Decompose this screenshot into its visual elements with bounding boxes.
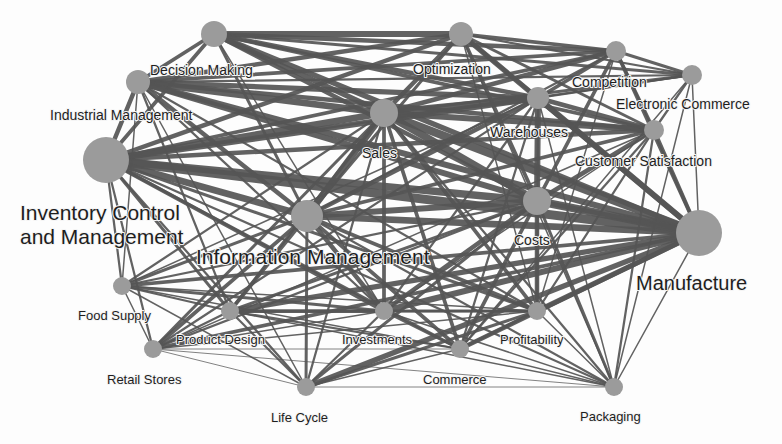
node-label-manu: Manufacture [636, 272, 747, 294]
node-label-life: Life Cycle [271, 410, 328, 425]
node-label-cs: Customer Satisfaction [575, 153, 712, 169]
node-opt [449, 22, 473, 46]
node-label-ecom: Electronic Commerce [616, 96, 750, 112]
node-label-food: Food Supply [78, 308, 151, 323]
node-prof [528, 302, 546, 320]
node-food [113, 277, 131, 295]
node-label-pack: Packaging [580, 409, 641, 424]
node-dm [126, 70, 150, 94]
node-pack [605, 378, 623, 396]
node-sales [370, 99, 398, 127]
node-inv [83, 137, 129, 183]
node-costs [523, 187, 551, 215]
edge-info-pack [307, 216, 614, 387]
node-manu [676, 210, 722, 256]
node-wh [527, 87, 549, 109]
node-label-opt: Optimization [413, 61, 491, 77]
node-label-comp: Competition [572, 74, 647, 90]
node-life [297, 378, 315, 396]
node-ecom [682, 65, 702, 85]
node-label-costs: Costs [514, 232, 550, 248]
node-top [201, 21, 227, 47]
node-pd [221, 302, 239, 320]
node-label-wh: Warehouses [490, 124, 568, 140]
node-label-invest: Investments [342, 332, 413, 347]
edge-prof-pack [537, 311, 614, 387]
node-cs [644, 120, 664, 140]
node-invest [375, 302, 393, 320]
node-retail [144, 340, 162, 358]
node-info [291, 200, 323, 232]
node-label-sales: Sales [362, 145, 397, 161]
node-label-inv: Inventory Control [20, 201, 180, 224]
node-label-dm: Decision Making [150, 62, 253, 78]
node-comm [451, 340, 469, 358]
node-label-im: Industrial Management [50, 107, 193, 123]
keyword-network-diagram: OptimizationCompetitionElectronic Commer… [0, 0, 782, 444]
node-comp [606, 41, 626, 61]
node-label-pd: Product Design [176, 332, 265, 347]
node-label-retail: Retail Stores [107, 372, 182, 387]
node-label-comm: Commerce [423, 372, 487, 387]
node-label-prof: Profitability [500, 332, 564, 347]
node-label-inv: and Management [20, 225, 184, 248]
node-label-info: Information Management [196, 245, 430, 268]
